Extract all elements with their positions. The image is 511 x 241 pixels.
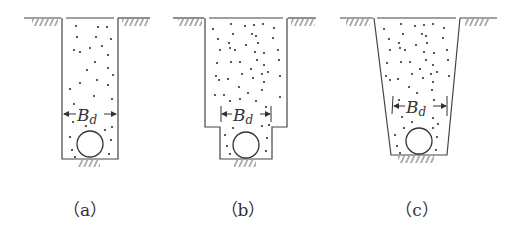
svg-text:Bd: Bd: [405, 97, 427, 119]
svg-text:Bd: Bd: [232, 105, 254, 127]
panel-b-caption: （b）: [213, 196, 273, 221]
width-dimension-tick: [392, 96, 393, 114]
panel-a-trench-diagram: Bd: [24, 18, 150, 167]
width-label-subscript: d: [246, 113, 254, 127]
soil-hatch-icon: [32, 19, 58, 26]
soil-hatch-icon: [291, 19, 315, 26]
soil-hatch-icon: [398, 156, 434, 163]
width-label-subscript: d: [90, 113, 98, 127]
pipe-icon: [233, 132, 259, 158]
pipe-icon: [77, 131, 103, 157]
soil-hatch-icon: [465, 19, 489, 26]
pipe-icon: [406, 128, 432, 154]
svg-text:Bd: Bd: [76, 105, 98, 127]
panel-c-trench-diagram: Bd: [340, 18, 497, 163]
width-label-subscript: d: [419, 105, 427, 119]
soil-hatch-icon: [346, 19, 370, 26]
soil-hatch-icon: [234, 160, 256, 167]
soil-hatch-icon: [178, 19, 202, 26]
panel-c-caption: （c）: [387, 196, 447, 221]
width-label: B: [405, 97, 419, 117]
trench-figure: Bd Bd: [0, 0, 511, 241]
panel-a-caption: （a）: [55, 196, 115, 221]
width-label: B: [76, 105, 90, 125]
panel-b-trench-diagram: Bd: [173, 18, 316, 167]
soil-hatch-icon: [122, 19, 148, 26]
soil-hatch-icon: [78, 160, 100, 167]
width-label: B: [232, 105, 246, 125]
